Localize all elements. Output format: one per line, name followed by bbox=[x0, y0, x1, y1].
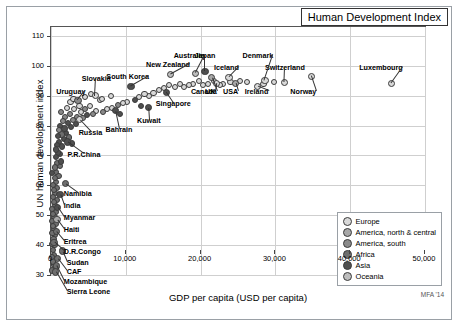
y-tickmark bbox=[47, 126, 51, 127]
data-point bbox=[100, 109, 106, 115]
x-tick-label: 0 bbox=[48, 254, 52, 263]
x-tick-label: 40,000 bbox=[338, 254, 361, 263]
point-label: Denmark bbox=[242, 51, 273, 60]
legend-item[interactable]: Europe bbox=[343, 216, 436, 227]
y-tickmark bbox=[47, 155, 51, 156]
x-tick-label: 30,000 bbox=[263, 254, 286, 263]
chart-title: Human Development Index bbox=[301, 8, 448, 26]
legend-item[interactable]: Oceania bbox=[343, 271, 436, 282]
data-point bbox=[172, 84, 178, 90]
legend-label: Europe bbox=[356, 216, 380, 227]
data-point bbox=[55, 133, 61, 139]
y-tick-label: 110 bbox=[18, 30, 44, 39]
data-point bbox=[64, 105, 70, 111]
x-tick-label: 50,000 bbox=[413, 254, 436, 263]
point-label: Singapore bbox=[156, 99, 191, 108]
gridline-horizontal bbox=[51, 36, 425, 37]
gridline-vertical bbox=[201, 27, 202, 275]
data-point bbox=[76, 103, 82, 109]
legend-swatch-icon bbox=[343, 272, 352, 281]
y-tick-label: 80 bbox=[18, 120, 44, 129]
data-point bbox=[58, 109, 64, 115]
x-axis-label: GDP per capita (USD per capita) bbox=[50, 292, 426, 303]
y-tickmark bbox=[47, 36, 51, 37]
point-label: South Korea bbox=[106, 72, 149, 81]
legend-swatch-icon bbox=[343, 228, 352, 237]
data-point bbox=[53, 146, 59, 152]
chart-root: Human Development Index LuxembourgNorway… bbox=[0, 0, 456, 324]
legend: EuropeAmerica, north & centralAmerica, s… bbox=[337, 212, 442, 286]
legend-item[interactable]: America, south bbox=[343, 238, 436, 249]
credit-text: MFA '14 bbox=[421, 291, 444, 298]
data-point bbox=[90, 111, 96, 117]
point-label: Slovakia bbox=[82, 74, 111, 83]
data-point bbox=[108, 93, 114, 99]
y-tickmark bbox=[47, 96, 51, 97]
point-label: Eritrea bbox=[64, 237, 87, 246]
point-label: Haiti bbox=[64, 225, 80, 234]
y-tick-label: 60 bbox=[18, 180, 44, 189]
legend-label: America, north & central bbox=[356, 227, 436, 238]
y-tick-label: 40 bbox=[18, 240, 44, 249]
point-label: Canada bbox=[191, 87, 217, 96]
data-point bbox=[196, 78, 202, 84]
y-tick-label: 70 bbox=[18, 150, 44, 159]
y-tickmark bbox=[47, 275, 51, 276]
point-label: P.R.China bbox=[67, 150, 100, 159]
y-tickmark bbox=[47, 66, 51, 67]
x-tick-label: 20,000 bbox=[188, 254, 211, 263]
gridline-vertical bbox=[126, 27, 127, 275]
point-label: Myanmar bbox=[64, 213, 96, 222]
y-tick-label: 90 bbox=[18, 90, 44, 99]
data-point bbox=[58, 158, 64, 164]
data-point bbox=[138, 103, 144, 109]
point-label: Mozambique bbox=[64, 277, 108, 286]
point-label: CAF bbox=[67, 267, 82, 276]
point-label: Sudan bbox=[67, 258, 89, 267]
data-point bbox=[244, 79, 250, 85]
data-point bbox=[132, 97, 138, 103]
y-tick-label: 100 bbox=[18, 60, 44, 69]
y-tick-label: 30 bbox=[18, 270, 44, 279]
legend-label: America, south bbox=[356, 238, 406, 249]
point-label: New Zealand bbox=[146, 60, 190, 69]
point-label: Australia bbox=[174, 51, 205, 60]
gridline-horizontal bbox=[51, 185, 425, 186]
y-tick-label: 50 bbox=[18, 210, 44, 219]
data-point bbox=[92, 92, 99, 99]
x-tick-label: 10,000 bbox=[113, 254, 136, 263]
gridline-horizontal bbox=[51, 155, 425, 156]
point-label: D.R.Congo bbox=[64, 247, 101, 256]
y-axis-label: UN human development index bbox=[34, 19, 45, 269]
point-label: Luxembourg bbox=[359, 63, 403, 72]
point-label: USA bbox=[223, 87, 238, 96]
data-point bbox=[99, 96, 105, 102]
legend-swatch-icon bbox=[343, 239, 352, 248]
data-point bbox=[141, 91, 147, 97]
legend-label: Oceania bbox=[356, 271, 384, 282]
point-label: India bbox=[64, 201, 81, 210]
data-point bbox=[201, 68, 208, 75]
legend-swatch-icon bbox=[343, 217, 352, 226]
legend-item[interactable]: America, north & central bbox=[343, 227, 436, 238]
point-label: Norway bbox=[290, 87, 316, 96]
